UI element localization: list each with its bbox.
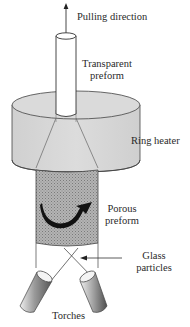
porous-preform-label-line1: Porous bbox=[104, 203, 140, 215]
diagram-canvas bbox=[0, 0, 190, 327]
torch-left bbox=[20, 269, 54, 313]
torches-label: Torches bbox=[52, 310, 85, 322]
pulling-arrow-icon bbox=[64, 3, 69, 33]
transparent-preform bbox=[56, 33, 76, 117]
glass-particles-arrow-icon bbox=[80, 255, 122, 260]
transparent-preform-label-line2: preform bbox=[82, 70, 132, 82]
ring-heater-label: Ring heater bbox=[131, 135, 180, 147]
torch-right bbox=[78, 269, 107, 313]
porous-preform-label-line2: preform bbox=[104, 215, 140, 227]
transparent-preform-label-line1: Transparent bbox=[82, 58, 132, 70]
diagram: Pulling direction Transparent preform Ri… bbox=[0, 0, 190, 327]
glass-particles-label-line1: Glass bbox=[134, 250, 174, 262]
pulling-direction-label: Pulling direction bbox=[77, 11, 147, 23]
glass-particles-label: Glass particles bbox=[134, 250, 174, 274]
glass-particles-label-line2: particles bbox=[134, 262, 174, 274]
porous-preform-label: Porous preform bbox=[104, 203, 140, 227]
transparent-preform-label: Transparent preform bbox=[82, 58, 132, 82]
